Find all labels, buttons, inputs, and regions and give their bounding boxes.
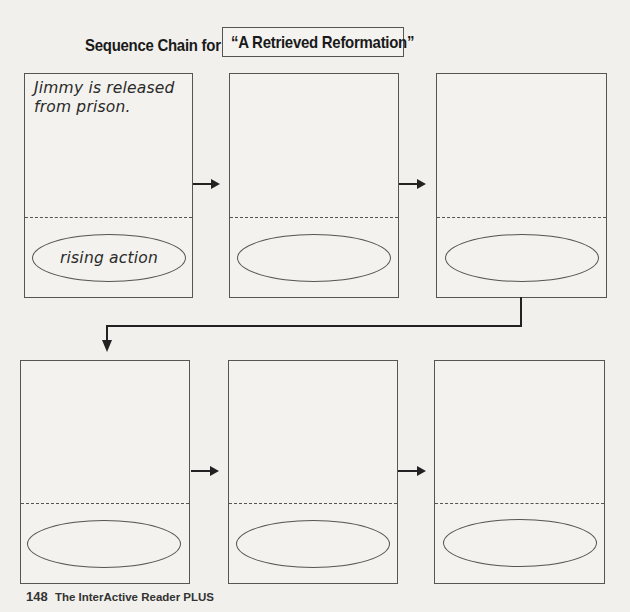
page-footer: 148 The InterActive Reader PLUS: [26, 589, 214, 604]
connector-line: [106, 325, 522, 327]
plot-stage-oval[interactable]: [443, 519, 597, 567]
sequence-box-5[interactable]: [228, 360, 398, 584]
sequence-box-6[interactable]: [434, 360, 605, 584]
plot-stage-oval[interactable]: [236, 520, 390, 568]
page-number: 148: [26, 589, 48, 604]
dashed-divider: [229, 503, 397, 504]
story-title-box: “A Retrieved Reformation”: [222, 27, 404, 57]
plot-stage-oval[interactable]: [445, 234, 599, 282]
sequence-box-4[interactable]: [20, 360, 190, 584]
dashed-divider: [230, 217, 398, 218]
sequence-box-1[interactable]: Jimmy is released from prison. rising ac…: [24, 73, 193, 298]
event-text[interactable]: Jimmy is released from prison.: [34, 79, 184, 117]
sequence-box-2[interactable]: [229, 73, 399, 298]
plot-stage-oval[interactable]: [237, 234, 391, 282]
right-arrow-icon: [398, 470, 418, 472]
dashed-divider: [437, 217, 606, 218]
connector-line: [520, 297, 522, 327]
sequence-box-3[interactable]: [436, 73, 607, 298]
down-arrow-icon: [102, 340, 112, 352]
dashed-divider: [435, 503, 604, 504]
plot-stage-oval[interactable]: rising action: [32, 234, 186, 282]
chain-title-label: Sequence Chain for: [85, 36, 221, 56]
dashed-divider: [25, 217, 192, 218]
right-arrow-icon: [399, 183, 418, 185]
right-arrow-icon: [191, 470, 211, 472]
dashed-divider: [21, 503, 189, 504]
plot-stage-oval[interactable]: [27, 520, 181, 568]
book-title: The InterActive Reader PLUS: [55, 591, 214, 603]
right-arrow-icon: [193, 183, 212, 185]
story-title: “A Retrieved Reformation”: [231, 33, 414, 53]
plot-stage-text: rising action: [60, 249, 158, 267]
